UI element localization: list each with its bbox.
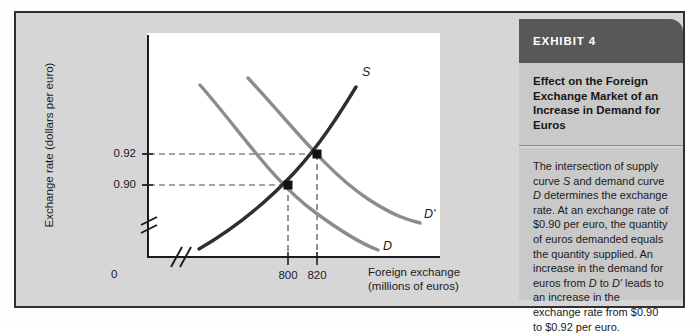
y-axis-label: Exchange rate (dollars per euro) [43,55,55,235]
x-tick-label-820: 820 [297,269,337,281]
exhibit-body-block: The intersection of supply curve S and d… [519,148,683,300]
curve-demand-D [200,85,378,250]
curve-label-D: D [383,239,392,253]
exhibit-header: EXHIBIT 4 [519,19,683,63]
x-axis-label-line1: Foreign exchange [368,265,460,279]
y-tick-label-090: 0.90 [94,178,136,190]
origin-label: 0 [111,268,117,280]
supply-demand-chart: Exchange rate (dollars per euro) 0.92 0.… [16,13,505,306]
y-tick-label-092: 0.92 [94,147,136,159]
x-axis-label: Foreign exchange (millions of euros) [368,265,460,293]
exhibit-title: Effect on the Foreign Exchange Market of… [533,74,670,132]
equilibrium-point-new [313,150,322,159]
exhibit-callout: EXHIBIT 4 Effect on the Foreign Exchange… [505,13,683,306]
exhibit-body-text: The intersection of supply curve S and d… [533,159,670,334]
x-axis-label-line2: (millions of euros) [368,279,460,293]
exhibit-header-label: EXHIBIT 4 [519,35,596,47]
exhibit-panel: Exchange rate (dollars per euro) 0.92 0.… [14,11,685,308]
curve-label-S: S [362,65,370,79]
exhibit-title-block: Effect on the Foreign Exchange Market of… [519,63,683,146]
chart-svg [16,13,505,306]
equilibrium-point-initial [284,181,293,190]
curve-label-D-prime: D' [424,207,435,221]
curve-demand-D-prime [248,78,420,223]
